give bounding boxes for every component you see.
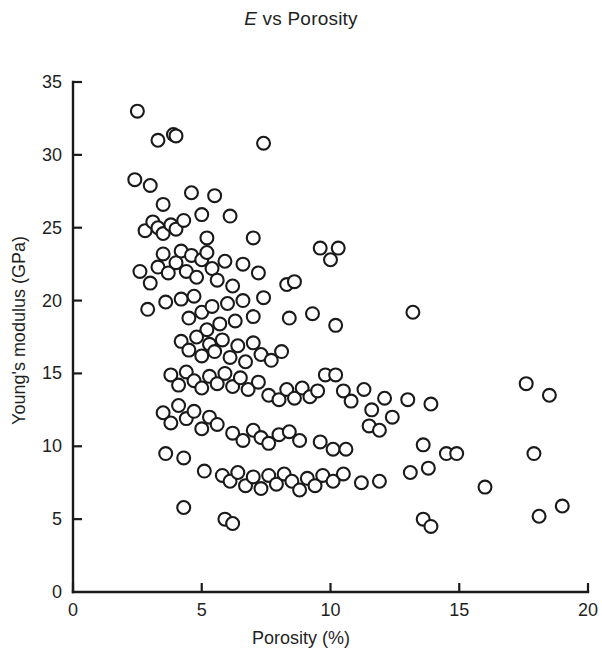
data-point xyxy=(182,344,195,357)
plot-area: 05101520 05101520253035 xyxy=(0,0,602,662)
y-axis-tick-label: 15 xyxy=(42,363,62,383)
data-point xyxy=(255,482,268,495)
y-axis-tick-label: 5 xyxy=(52,509,62,529)
data-point xyxy=(172,399,185,412)
data-point xyxy=(329,368,342,381)
data-point xyxy=(247,310,260,323)
data-point xyxy=(190,271,203,284)
data-point xyxy=(170,129,183,142)
y-axis-tick-label: 35 xyxy=(42,72,62,92)
data-point xyxy=(237,434,250,447)
data-point xyxy=(404,466,417,479)
data-point xyxy=(188,405,201,418)
data-point xyxy=(177,214,190,227)
data-point xyxy=(206,300,219,313)
scatter-chart: E vs Porosity 05101520 05101520253035 Po… xyxy=(0,0,602,662)
y-tick-label-group: 05101520253035 xyxy=(42,72,62,602)
data-point xyxy=(211,274,224,287)
data-point xyxy=(527,447,540,460)
data-point xyxy=(237,294,250,307)
data-point xyxy=(355,476,368,489)
data-point xyxy=(231,339,244,352)
data-point xyxy=(190,331,203,344)
data-point xyxy=(257,291,270,304)
data-point xyxy=(234,371,247,384)
data-point xyxy=(314,435,327,448)
data-point xyxy=(479,481,492,494)
x-axis-tick-label: 15 xyxy=(449,600,469,620)
data-point xyxy=(373,424,386,437)
data-point xyxy=(257,137,270,150)
data-point xyxy=(195,349,208,362)
data-point xyxy=(450,447,463,460)
data-point xyxy=(417,438,430,451)
data-point xyxy=(229,315,242,328)
y-axis-tick-label: 10 xyxy=(42,436,62,456)
data-point xyxy=(200,246,213,259)
data-point xyxy=(283,312,296,325)
data-point xyxy=(159,447,172,460)
data-point xyxy=(195,422,208,435)
data-point xyxy=(424,398,437,411)
data-point xyxy=(311,384,324,397)
data-point xyxy=(543,389,556,402)
x-axis-title: Porosity (%) xyxy=(0,628,602,649)
data-point xyxy=(175,293,188,306)
data-point xyxy=(340,443,353,456)
x-axis-tick-label: 0 xyxy=(68,600,78,620)
data-point xyxy=(288,275,301,288)
data-point xyxy=(406,306,419,319)
data-point xyxy=(337,468,350,481)
data-point xyxy=(239,355,252,368)
data-point xyxy=(185,186,198,199)
data-point xyxy=(533,510,546,523)
data-point-group xyxy=(128,105,568,533)
data-point xyxy=(208,189,221,202)
data-point xyxy=(221,297,234,310)
data-point xyxy=(401,393,414,406)
data-point xyxy=(131,105,144,118)
data-point xyxy=(182,312,195,325)
data-point xyxy=(345,395,358,408)
data-point xyxy=(293,484,306,497)
x-axis-tick-label: 10 xyxy=(320,600,340,620)
data-point xyxy=(159,296,172,309)
axis-lines xyxy=(73,82,588,592)
data-point xyxy=(324,253,337,266)
x-axis-tick-label: 20 xyxy=(578,600,598,620)
data-point xyxy=(213,317,226,330)
x-axis-tick-label: 5 xyxy=(197,600,207,620)
data-point xyxy=(198,465,211,478)
data-point xyxy=(520,377,533,390)
data-point xyxy=(247,231,260,244)
data-point xyxy=(200,231,213,244)
data-point xyxy=(378,392,391,405)
data-point xyxy=(144,277,157,290)
data-point xyxy=(386,411,399,424)
data-point xyxy=(164,417,177,430)
data-point xyxy=(211,418,224,431)
data-point xyxy=(332,242,345,255)
y-axis-tick-label: 30 xyxy=(42,145,62,165)
data-point xyxy=(237,258,250,271)
data-point xyxy=(293,434,306,447)
data-point xyxy=(157,247,170,260)
data-point xyxy=(252,266,265,279)
data-point xyxy=(358,383,371,396)
x-tick-label-group: 05101520 xyxy=(68,600,598,620)
data-point xyxy=(329,319,342,332)
data-point xyxy=(424,520,437,533)
data-point xyxy=(231,466,244,479)
y-axis-title: Young's modulus (GPa) xyxy=(9,201,30,461)
data-point xyxy=(247,336,260,349)
data-point xyxy=(422,462,435,475)
data-point xyxy=(128,173,141,186)
data-point xyxy=(224,351,237,364)
y-axis-tick-label: 20 xyxy=(42,291,62,311)
data-point xyxy=(373,475,386,488)
data-point xyxy=(224,210,237,223)
data-point xyxy=(218,255,231,268)
data-point xyxy=(216,333,229,346)
data-point xyxy=(141,303,154,316)
data-point xyxy=(275,345,288,358)
